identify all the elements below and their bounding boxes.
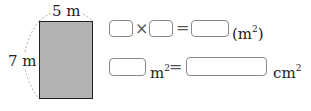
equals-sign-2: = bbox=[169, 58, 182, 76]
area-m2-input-2[interactable] bbox=[109, 58, 146, 76]
equals-sign: = bbox=[176, 19, 189, 37]
unit-cm2: cm2 bbox=[273, 59, 301, 82]
area-m2-input[interactable] bbox=[191, 20, 229, 37]
unit-m2-paren: (m2) bbox=[232, 20, 264, 43]
length-input[interactable] bbox=[109, 20, 133, 37]
shaded-rectangle bbox=[39, 21, 93, 99]
height-label: 7 m bbox=[8, 53, 37, 69]
width-input[interactable] bbox=[149, 20, 173, 37]
area-cm2-input[interactable] bbox=[186, 57, 267, 76]
width-label: 5 m bbox=[52, 3, 81, 19]
unit-m2: m2 bbox=[150, 59, 170, 82]
times-sign: × bbox=[135, 20, 148, 38]
